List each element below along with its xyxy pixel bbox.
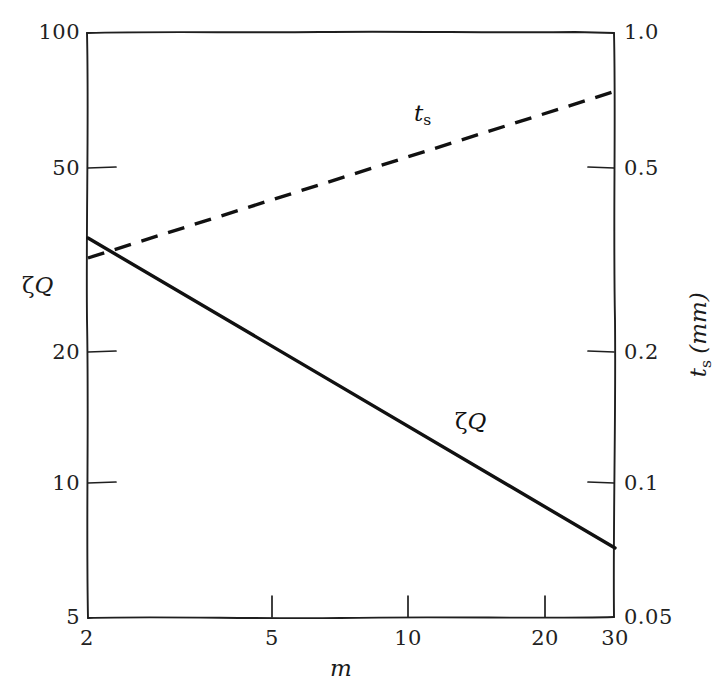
bottom-axis-ticks	[272, 596, 545, 617]
annotation-zeta-q: ζQ	[455, 408, 486, 434]
bottom-axis-title-text: m	[330, 655, 352, 681]
right-tick-label-0_1: 0.1	[624, 471, 659, 495]
bottom-tick-label-20: 20	[521, 626, 569, 650]
left-tick-label-100: 100	[18, 20, 80, 44]
annotation-ts-sub: s	[423, 110, 431, 129]
bottom-tick-label-2: 2	[63, 626, 111, 650]
right-tick-0_1	[588, 482, 614, 483]
right-axis-title-main: t	[685, 368, 711, 377]
bottom-tick-label-30: 30	[591, 626, 639, 650]
left-tick-label-50: 50	[18, 156, 80, 180]
plot-frame	[87, 32, 615, 618]
right-tick-0_2	[588, 351, 614, 352]
annotation-zeta-q-q: Q	[467, 408, 486, 434]
left-tick-label-20: 20	[18, 340, 80, 364]
right-tick-0_5	[588, 167, 614, 168]
right-tick-label-0_5: 0.5	[624, 156, 659, 180]
right-axis-title-sub: s	[696, 360, 715, 368]
right-axis-title: ts(mm)	[685, 275, 714, 395]
right-tick-label-0_2: 0.2	[624, 340, 659, 364]
left-tick-label-10: 10	[18, 471, 80, 495]
left-axis-title-zeta: ζ	[22, 272, 34, 298]
left-tick-20	[88, 351, 116, 352]
annotation-ts-main: t	[414, 100, 423, 126]
right-axis-ticks	[588, 167, 614, 483]
bottom-axis-title: m	[330, 655, 352, 681]
left-axis-title: ζQ	[22, 272, 53, 298]
figure-root: 100 50 20 10 5 ζQ 1.0 0.5 0.2 0.1 0.05 t…	[0, 0, 717, 698]
right-tick-label-1_0: 1.0	[624, 20, 659, 44]
bottom-tick-label-5: 5	[248, 626, 296, 650]
left-tick-10	[88, 482, 116, 483]
curve-zeta-q	[88, 238, 615, 548]
plot-canvas	[0, 0, 717, 698]
left-tick-50	[88, 167, 116, 168]
bottom-tick-label-10: 10	[384, 626, 432, 650]
left-axis-title-q: Q	[34, 272, 53, 298]
right-axis-title-unit: (mm)	[685, 292, 711, 354]
annotation-ts: ts	[414, 100, 431, 129]
left-axis-ticks	[88, 167, 116, 483]
curve-ts	[88, 92, 613, 258]
annotation-zeta-q-zeta: ζ	[455, 408, 467, 434]
